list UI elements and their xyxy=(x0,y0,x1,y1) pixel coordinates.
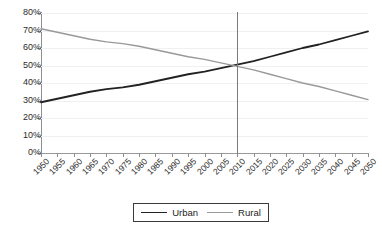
x-tickmark xyxy=(123,153,124,157)
chart-legend: UrbanRural xyxy=(133,203,269,222)
y-axis-label: 60% xyxy=(7,43,41,52)
gridline-10% xyxy=(41,136,368,137)
x-tickmark xyxy=(303,153,304,157)
x-tickmark xyxy=(286,153,287,157)
y-axis-label: 80% xyxy=(7,8,41,17)
y-axis-label: 10% xyxy=(7,131,41,140)
legend-label: Urban xyxy=(172,208,198,218)
y-axis-label: 0% xyxy=(7,148,41,157)
x-tickmark xyxy=(254,153,255,157)
legend-label: Rural xyxy=(238,208,261,218)
x-tickmark xyxy=(41,153,42,157)
x-tickmark xyxy=(139,153,140,157)
cropped-title-strip xyxy=(0,0,382,6)
x-tickmark xyxy=(368,153,369,157)
legend-entry-rural[interactable]: Rural xyxy=(207,208,261,218)
y-axis-label: 50% xyxy=(7,61,41,70)
x-tickmark xyxy=(57,153,58,157)
gridline-30% xyxy=(41,101,368,102)
x-tickmark xyxy=(270,153,271,157)
x-tickmark xyxy=(188,153,189,157)
gridline-20% xyxy=(41,118,368,119)
y-axis-label: 40% xyxy=(7,78,41,87)
legend-swatch-urban xyxy=(141,212,167,213)
gridline-80% xyxy=(41,13,368,14)
x-tickmark xyxy=(319,153,320,157)
x-tickmark xyxy=(74,153,75,157)
legend-entry-urban[interactable]: Urban xyxy=(141,208,198,218)
y-axis-label: 70% xyxy=(7,26,41,35)
gridline-50% xyxy=(41,66,368,67)
crossover-marker-line xyxy=(237,12,238,154)
plot-area xyxy=(41,13,368,153)
legend-swatch-rural xyxy=(207,212,233,213)
gridline-60% xyxy=(41,48,368,49)
x-tickmark xyxy=(352,153,353,157)
y-axis-label: 20% xyxy=(7,113,41,122)
x-tickmark xyxy=(90,153,91,157)
gridline-40% xyxy=(41,83,368,84)
x-tickmark xyxy=(205,153,206,157)
gridline-70% xyxy=(41,31,368,32)
y-axis-label: 30% xyxy=(7,96,41,105)
x-tickmark xyxy=(221,153,222,157)
urban-rural-population-chart: 0%10%20%30%40%50%60%70%80% 1950195519601… xyxy=(0,0,382,227)
x-tickmark xyxy=(335,153,336,157)
x-tickmark xyxy=(172,153,173,157)
